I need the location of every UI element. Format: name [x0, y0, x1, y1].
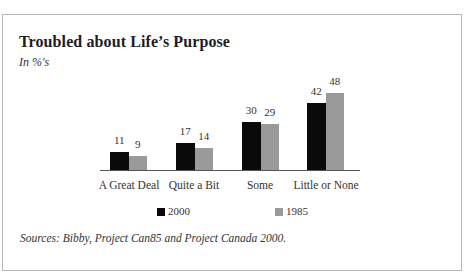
value-label: 29	[258, 106, 282, 118]
chart-source: Sources: Bibby, Project Can85 and Projec…	[20, 232, 286, 244]
bar-1985-quite-a-bit	[195, 148, 214, 170]
bar-2000-little-or-none	[307, 103, 326, 170]
value-label: 14	[192, 130, 216, 142]
value-label: 48	[323, 75, 347, 87]
value-label: 9	[126, 138, 150, 150]
x-axis-line	[100, 170, 360, 171]
bar-2000-some	[242, 122, 261, 170]
bar-1985-little-or-none	[326, 93, 345, 170]
category-label: Little or None	[281, 179, 371, 191]
bar-2000-quite-a-bit	[176, 143, 195, 170]
bar-1985-a-great-deal	[129, 156, 148, 170]
bar-2000-a-great-deal	[110, 152, 129, 170]
legend-swatch-2000	[157, 208, 165, 216]
bar-1985-some	[261, 124, 280, 170]
legend-label-2000: 2000	[168, 205, 190, 217]
legend-label-1985: 1985	[286, 205, 308, 217]
legend-swatch-1985	[275, 208, 283, 216]
